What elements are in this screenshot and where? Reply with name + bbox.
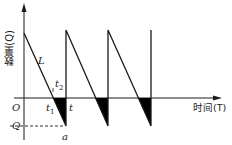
y-axis-arrow-icon: [22, 3, 27, 12]
t-label: t: [69, 103, 73, 113]
diagram-canvas: [0, 0, 232, 145]
a-label: a: [62, 132, 68, 142]
y-axis-label: 数量(Q): [5, 30, 19, 66]
x-axis-arrow-icon: [213, 96, 222, 101]
line-label: L: [38, 56, 45, 66]
inventory-sawtooth-diagram: 数量(Q) 时间(T) O L t1 t2 t Q a: [0, 0, 232, 145]
t2-label: t2: [55, 79, 64, 92]
q-label: Q: [12, 121, 20, 131]
x-axis-label: 时间(T): [193, 103, 226, 113]
origin-label: O: [12, 103, 20, 113]
inventory-line: [24, 30, 151, 126]
t1-label: t1: [46, 103, 55, 116]
